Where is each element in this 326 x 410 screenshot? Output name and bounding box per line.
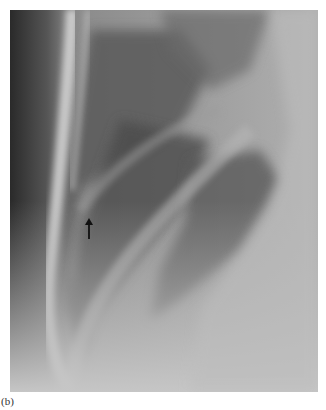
arrow-marker-icon bbox=[84, 218, 94, 240]
radiograph-image bbox=[10, 10, 318, 392]
panel-label: (b) bbox=[1, 394, 14, 408]
